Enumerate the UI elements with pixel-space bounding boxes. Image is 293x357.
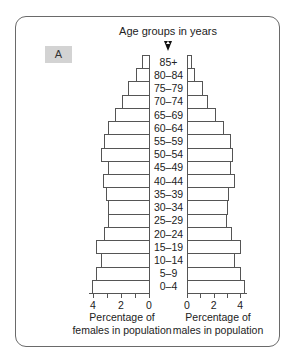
female-bar bbox=[108, 121, 150, 135]
female-bar bbox=[104, 227, 150, 241]
female-bar bbox=[96, 267, 150, 281]
axis-tick bbox=[135, 294, 136, 298]
age-group-label: 30–34 bbox=[150, 200, 187, 214]
female-bar bbox=[103, 174, 150, 188]
male-bar bbox=[187, 81, 203, 95]
axis-tick bbox=[93, 294, 94, 298]
female-bar bbox=[142, 55, 150, 69]
male-bar bbox=[187, 280, 245, 294]
population-pyramid: 85+80–8475–7970–7465–6960–6455–5950–5445… bbox=[0, 0, 293, 357]
male-bar bbox=[187, 55, 192, 69]
age-group-label: 5–9 bbox=[150, 266, 187, 280]
age-group-label: 10–14 bbox=[150, 253, 187, 267]
female-bar bbox=[128, 81, 150, 95]
female-tick-label: 0 bbox=[142, 299, 156, 311]
male-bar bbox=[187, 134, 231, 148]
male-bar bbox=[187, 161, 231, 175]
female-bar bbox=[108, 200, 150, 214]
axis-tick bbox=[200, 294, 201, 298]
male-bar bbox=[187, 187, 229, 201]
female-bar bbox=[108, 161, 150, 175]
female-bar bbox=[104, 134, 150, 148]
male-bar bbox=[187, 108, 216, 122]
female-axis-line bbox=[89, 293, 150, 294]
male-bar bbox=[187, 200, 228, 214]
male-axis-line bbox=[187, 293, 247, 294]
female-tick-label: 2 bbox=[114, 299, 128, 311]
age-group-label: 45–49 bbox=[150, 160, 187, 174]
male-tick-label: 4 bbox=[233, 299, 247, 311]
male-bar bbox=[187, 214, 227, 228]
male-bar bbox=[187, 267, 241, 281]
female-bar bbox=[101, 253, 150, 267]
female-bar bbox=[115, 108, 150, 122]
age-group-label: 25–29 bbox=[150, 213, 187, 227]
age-group-label: 85+ bbox=[150, 55, 187, 69]
age-group-label: 80–84 bbox=[150, 68, 187, 82]
left-axis-title-line1: Percentage of bbox=[72, 311, 172, 324]
age-group-label: 60–64 bbox=[150, 121, 187, 135]
axis-tick bbox=[149, 294, 150, 298]
male-bar bbox=[187, 148, 233, 162]
age-group-label: 40–44 bbox=[150, 174, 187, 188]
female-tick-label: 4 bbox=[86, 299, 100, 311]
male-tick-label: 2 bbox=[207, 299, 221, 311]
male-bar bbox=[187, 253, 235, 267]
male-bar bbox=[187, 240, 241, 254]
age-group-label: 0–4 bbox=[150, 279, 187, 293]
age-group-label: 35–39 bbox=[150, 187, 187, 201]
age-group-label: 55–59 bbox=[150, 134, 187, 148]
female-bar bbox=[96, 240, 150, 254]
age-group-label: 15–19 bbox=[150, 240, 187, 254]
left-axis-title-line2: females in population bbox=[72, 324, 172, 337]
age-group-label: 50–54 bbox=[150, 147, 187, 161]
axis-tick bbox=[107, 294, 108, 298]
female-bar bbox=[106, 187, 150, 201]
male-bar bbox=[187, 121, 224, 135]
female-bar bbox=[101, 148, 150, 162]
age-group-label: 75–79 bbox=[150, 81, 187, 95]
female-bar bbox=[136, 68, 150, 82]
axis-tick bbox=[214, 294, 215, 298]
right-axis-title-line1: Percentage of bbox=[168, 311, 268, 324]
male-bar bbox=[187, 68, 195, 82]
axis-tick bbox=[240, 294, 241, 298]
female-bar bbox=[92, 280, 150, 294]
age-group-label: 65–69 bbox=[150, 108, 187, 122]
male-tick-label: 0 bbox=[180, 299, 194, 311]
age-group-label: 20–24 bbox=[150, 227, 187, 241]
axis-tick bbox=[227, 294, 228, 298]
age-group-label: 70–74 bbox=[150, 94, 187, 108]
female-bar bbox=[108, 214, 150, 228]
axis-tick bbox=[187, 294, 188, 298]
male-bar bbox=[187, 174, 235, 188]
female-bar bbox=[122, 95, 150, 109]
right-axis-title-line2: males in population bbox=[168, 324, 268, 337]
male-bar bbox=[187, 95, 208, 109]
axis-tick bbox=[121, 294, 122, 298]
male-bar bbox=[187, 227, 232, 241]
